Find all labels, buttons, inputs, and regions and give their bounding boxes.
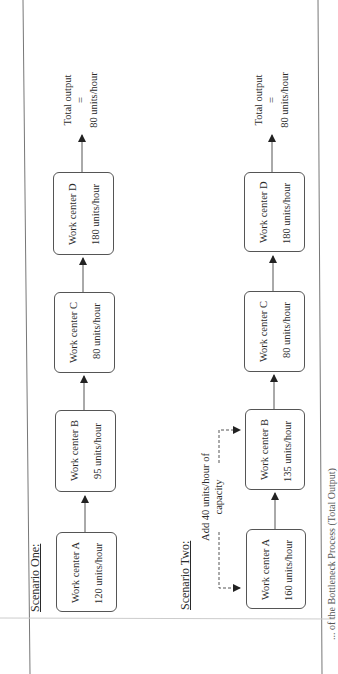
scenario-one-heading: Scenario One: bbox=[29, 544, 41, 612]
work-center-rate: 135 units/hour bbox=[282, 421, 294, 482]
scenario-two-heading: Scenario Two: bbox=[179, 541, 191, 610]
annotation-line2: capacity bbox=[212, 453, 225, 541]
annotation-line1: Add 40 units/hour of bbox=[199, 453, 212, 541]
output-value: 80 units/hour bbox=[87, 72, 100, 128]
work-center-rate: 120 units/hour bbox=[93, 543, 105, 604]
work-center-rate: 80 units/hour bbox=[281, 302, 293, 358]
output-value: 80 units/hour bbox=[278, 72, 291, 128]
scenario-two-work-center-a: Work center A 160 units/hour bbox=[246, 529, 306, 609]
work-center-name: Work center A bbox=[70, 542, 82, 603]
work-center-name: Work center C bbox=[258, 301, 270, 362]
work-center-name: Work center C bbox=[68, 302, 80, 363]
scenario-two-work-center-c: Work center C 80 units/hour bbox=[244, 291, 305, 372]
scenario-one-work-center-c: Work center C 80 units/hour bbox=[54, 292, 115, 373]
output-label: Total output bbox=[61, 72, 74, 128]
scenario-one-total-output: Total output = 80 units/hour bbox=[61, 72, 100, 128]
work-center-name: Work center B bbox=[69, 420, 81, 481]
output-equals: = bbox=[265, 72, 278, 128]
output-equals: = bbox=[74, 72, 87, 128]
work-center-rate: 160 units/hour bbox=[283, 540, 295, 601]
work-center-name: Work center B bbox=[259, 419, 271, 480]
figure-caption: ... of the Bottleneck Process (Total Out… bbox=[326, 468, 338, 640]
work-center-name: Work center D bbox=[258, 181, 270, 243]
scenario-one-work-center-a: Work center A 120 units/hour bbox=[56, 532, 117, 612]
scenario-two-work-center-b: Work center B 135 units/hour bbox=[245, 409, 305, 490]
work-center-rate: 180 units/hour bbox=[281, 183, 293, 244]
work-center-name: Work center A bbox=[260, 539, 272, 600]
output-label: Total output bbox=[252, 72, 265, 128]
work-center-rate: 180 units/hour bbox=[90, 184, 102, 245]
work-center-name: Work center D bbox=[67, 183, 79, 245]
work-center-rate: 80 units/hour bbox=[91, 303, 103, 359]
capacity-annotation: Add 40 units/hour of capacity bbox=[199, 453, 225, 541]
work-center-rate: 95 units/hour bbox=[92, 423, 104, 479]
scenario-one-work-center-d: Work center D 180 units/hour bbox=[53, 172, 114, 255]
scenario-two-work-center-d: Work center D 180 units/hour bbox=[244, 172, 305, 252]
scenario-one-work-center-b: Work center B 95 units/hour bbox=[55, 410, 116, 492]
scenario-two-total-output: Total output = 80 units/hour bbox=[252, 72, 291, 128]
